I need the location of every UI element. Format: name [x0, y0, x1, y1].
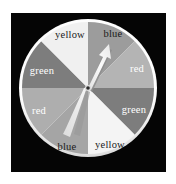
label-green-left-upper: green — [30, 65, 55, 76]
label-yellow-top-left: yellow — [55, 29, 85, 40]
spinner-figure: blue red green yellow blue red green yel… — [0, 0, 176, 184]
spinner-wheel-container: blue red green yellow blue red green yel… — [0, 0, 176, 184]
label-red-right-upper: red — [130, 63, 145, 74]
label-yellow-bottom-right: yellow — [95, 139, 125, 150]
label-blue-bottom-left: blue — [58, 141, 77, 152]
label-green-right-lower: green — [122, 104, 147, 115]
label-blue-top-right: blue — [104, 28, 123, 39]
spinner-hub-pivot — [86, 86, 90, 90]
label-red-left-lower: red — [32, 105, 47, 116]
spinner-wheel-svg: blue red green yellow blue red green yel… — [0, 0, 176, 184]
